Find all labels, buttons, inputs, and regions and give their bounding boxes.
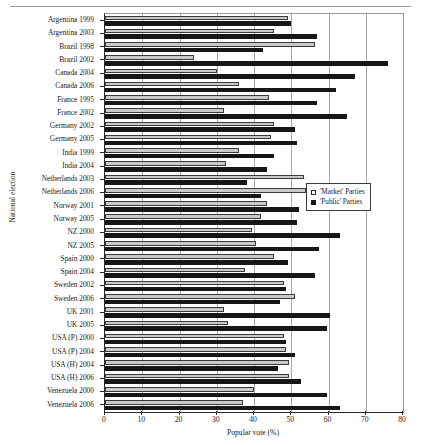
y-tick-mark	[100, 113, 104, 114]
bar-public	[105, 194, 261, 199]
bar-public	[105, 88, 336, 93]
bar-row	[105, 319, 403, 332]
y-tick-mark	[100, 258, 104, 259]
y-tick-label: Sweden 2002	[54, 278, 94, 292]
bar-public	[105, 247, 319, 252]
bar-market	[105, 347, 286, 352]
bar-public	[105, 167, 267, 172]
bar-public	[105, 127, 295, 132]
bar-market	[105, 254, 274, 259]
bar-row	[105, 359, 403, 372]
y-tick-mark	[100, 285, 104, 286]
y-tick-label: Norway 2005	[54, 212, 94, 226]
y-tick-label: USA (H) 2004	[51, 358, 94, 372]
bar-row	[105, 346, 403, 359]
y-tick-label: France 2002	[57, 106, 94, 120]
bar-public	[105, 260, 288, 265]
y-tick-label: UK 2005	[67, 318, 94, 332]
y-tick-label: Germany 2002	[50, 119, 94, 133]
bar-market	[105, 214, 261, 219]
y-tick-mark	[100, 219, 104, 220]
y-tick-label: Sweden 2006	[54, 292, 94, 306]
bar-public	[105, 393, 327, 398]
bar-public	[105, 313, 330, 318]
bar-market	[105, 241, 256, 246]
bar-market	[105, 321, 228, 326]
bar-row	[105, 27, 403, 40]
y-tick-mark	[100, 245, 104, 246]
bar-public	[105, 61, 388, 66]
y-tick-mark	[100, 312, 104, 313]
y-tick-mark	[100, 404, 104, 405]
y-tick-label: NZ 2000	[68, 225, 94, 239]
bar-row	[105, 385, 403, 398]
y-tick-label: Venezuela 2006	[47, 398, 94, 412]
bar-public	[105, 101, 317, 106]
bar-market	[105, 268, 245, 273]
y-tick-mark	[100, 139, 104, 140]
x-tick-label: 10	[137, 415, 145, 424]
bar-market	[105, 294, 295, 299]
bar-row	[105, 54, 403, 67]
bar-public	[105, 48, 263, 53]
y-tick-mark	[100, 46, 104, 47]
y-tick-mark	[100, 126, 104, 127]
bar-market	[105, 281, 284, 286]
x-tick-label: 70	[361, 415, 369, 424]
y-tick-label: France 1995	[57, 93, 94, 107]
y-tick-label: USA (H) 2006	[51, 371, 94, 385]
x-tick-mark	[402, 411, 403, 415]
bar-row	[105, 213, 403, 226]
bar-public	[105, 21, 291, 26]
y-tick-mark	[100, 338, 104, 339]
bar-public	[105, 366, 278, 371]
y-tick-label: Argentina 1999	[48, 13, 94, 27]
x-tick-label: 80	[398, 415, 406, 424]
legend-label-public: 'Public' Parties	[320, 198, 362, 206]
bar-row	[105, 120, 403, 133]
y-tick-label: USA (P) 2000	[52, 331, 94, 345]
y-tick-mark	[100, 179, 104, 180]
bar-row	[105, 67, 403, 80]
bar-row	[105, 240, 403, 253]
bar-public	[105, 180, 247, 185]
y-tick-mark	[100, 351, 104, 352]
y-tick-label: Norway 2001	[54, 199, 94, 213]
bar-row	[105, 279, 403, 292]
y-tick-mark	[100, 365, 104, 366]
bar-row	[105, 133, 403, 146]
bar-market	[105, 42, 315, 47]
bar-public	[105, 340, 286, 345]
x-tick-mark	[290, 411, 291, 415]
y-tick-label: India 1999	[62, 146, 94, 160]
y-tick-label: Netherlands 2003	[42, 172, 94, 186]
bar-public	[105, 300, 280, 305]
bar-market	[105, 95, 269, 100]
y-tick-label: Argentina 2003	[48, 26, 94, 40]
bar-market	[105, 334, 284, 339]
x-tick-mark	[179, 411, 180, 415]
y-tick-label: Brazil 1998	[59, 40, 94, 54]
bar-public	[105, 74, 355, 79]
bar-row	[105, 372, 403, 385]
bar-market	[105, 135, 271, 140]
bar-row	[105, 226, 403, 239]
y-axis-tick-labels: Argentina 1999Argentina 2003Brazil 1998B…	[0, 13, 100, 411]
bar-row	[105, 147, 403, 160]
bar-row	[105, 107, 403, 120]
y-tick-label: Netherlands 2006	[42, 185, 94, 199]
x-tick-mark	[216, 411, 217, 415]
legend-label-market: 'Market' Parties	[320, 188, 365, 196]
bar-public	[105, 406, 340, 411]
y-tick-label: Germany 2005	[50, 132, 94, 146]
bar-market	[105, 201, 267, 206]
bar-market	[105, 161, 226, 166]
x-tick-label: 40	[249, 415, 257, 424]
bar-public	[105, 114, 347, 119]
bar-market	[105, 307, 224, 312]
chart-legend: 'Market' Parties 'Public' Parties	[306, 183, 371, 211]
bar-market	[105, 387, 254, 392]
bar-public	[105, 287, 286, 292]
bar-rows	[105, 14, 403, 412]
legend-item-market: 'Market' Parties	[311, 187, 365, 197]
